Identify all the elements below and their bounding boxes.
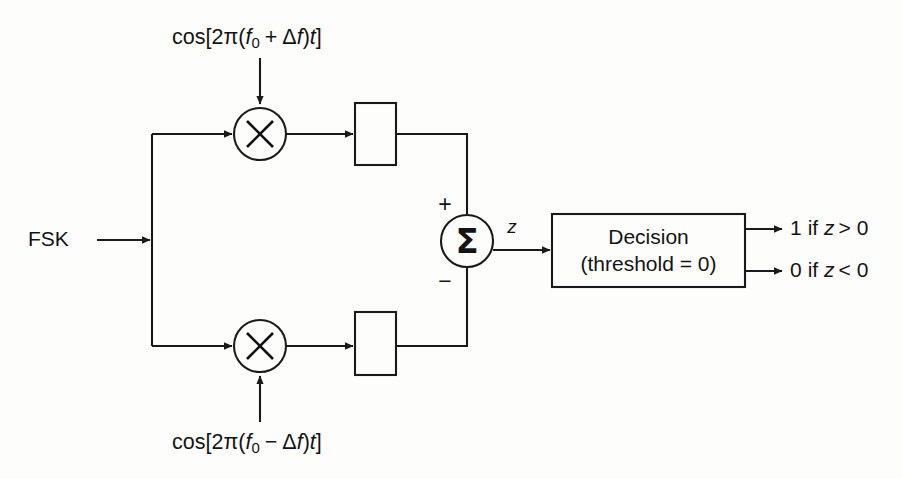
upper-summer-feed-wire bbox=[396, 134, 467, 214]
lower-carrier-prefix: cos[2π( bbox=[172, 430, 246, 454]
upper-carrier-label: cos[2π(f0+Δf)t] bbox=[172, 25, 322, 51]
upper-carrier-f-sub: 0 bbox=[251, 34, 259, 51]
fsk-demodulator-diagram: FSK cos[2π(f0+Δf)t] bbox=[0, 0, 902, 479]
splitter-bus bbox=[152, 134, 232, 346]
summer-plus-sign: + bbox=[438, 191, 451, 217]
upper-carrier-close: ) bbox=[303, 25, 310, 49]
upper-carrier-op: + bbox=[265, 25, 278, 49]
upper-to-summer-path bbox=[396, 134, 467, 214]
summer-minus-sign: − bbox=[438, 268, 451, 294]
output-2-cmp: < 0 bbox=[839, 258, 869, 281]
figure-canvas: FSK cos[2π(f0+Δf)t] bbox=[0, 0, 902, 479]
decision-block-line1: Decision bbox=[608, 225, 689, 248]
output-label-1: 1if z> 0 bbox=[790, 216, 868, 239]
output-1-if: if bbox=[808, 216, 824, 239]
upper-multiplier-node bbox=[234, 108, 286, 160]
decision-block: Decision (threshold = 0) bbox=[552, 214, 745, 287]
output-2-if: if bbox=[808, 258, 824, 281]
output-label-2: 0if z< 0 bbox=[790, 258, 868, 281]
output-1-value: 1 bbox=[790, 216, 802, 239]
lower-multiplier-node bbox=[234, 320, 286, 372]
summer-output-label: z bbox=[506, 216, 517, 237]
upper-filter-box-rect bbox=[355, 103, 396, 165]
lower-carrier-label: cos[2π(f0−Δf)t] bbox=[172, 430, 322, 456]
upper-carrier-group: cos[2π(f0+Δf)t] bbox=[172, 25, 322, 104]
upper-carrier-prefix: cos[2π( bbox=[172, 25, 246, 49]
fsk-input-group: FSK bbox=[28, 227, 150, 250]
lower-carrier-group: cos[2π(f0−Δf)t] bbox=[172, 376, 322, 456]
upper-carrier-delta: Δ bbox=[282, 25, 296, 49]
output-2-value: 0 bbox=[790, 258, 802, 281]
decision-block-line2: (threshold = 0) bbox=[581, 252, 717, 275]
fsk-input-label: FSK bbox=[28, 227, 69, 250]
output-1-var: z bbox=[823, 216, 835, 239]
lower-carrier-f-sub: 0 bbox=[251, 439, 259, 456]
output-group-2: 0if z< 0 bbox=[745, 258, 868, 281]
sigma-icon: Σ bbox=[455, 221, 478, 261]
lower-summer-feed-wire bbox=[396, 268, 467, 346]
lower-filter-box bbox=[355, 312, 396, 375]
lower-carrier-op: − bbox=[265, 430, 278, 454]
lower-carrier-delta: Δ bbox=[282, 430, 296, 454]
upper-carrier-bracket: ] bbox=[316, 25, 322, 49]
output-1-cmp: > 0 bbox=[839, 216, 869, 239]
lower-to-summer-path bbox=[396, 268, 467, 346]
summer-output-group: z bbox=[493, 216, 550, 250]
lower-carrier-bracket: ] bbox=[316, 430, 322, 454]
lower-carrier-close: ) bbox=[303, 430, 310, 454]
output-2-var: z bbox=[823, 258, 835, 281]
output-group-1: 1if z> 0 bbox=[745, 216, 868, 239]
lower-filter-box-rect bbox=[355, 312, 396, 375]
summer-node: Σ + − bbox=[438, 191, 493, 294]
upper-filter-box bbox=[355, 103, 396, 165]
